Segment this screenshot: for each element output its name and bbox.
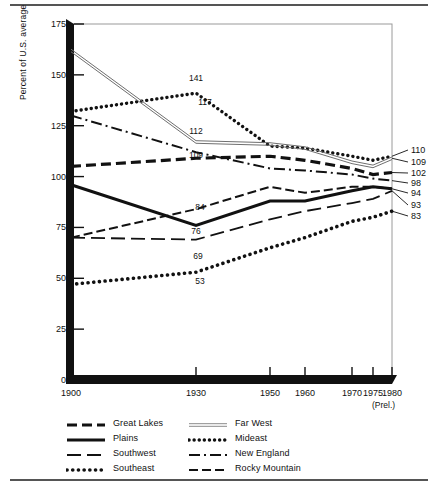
- legend-item-label: Plains: [113, 433, 138, 443]
- preliminary-note: (Prel.): [372, 400, 395, 410]
- legend-item-mideast[interactable]: Mideast: [188, 430, 338, 445]
- legend-swatch-icon: [66, 462, 106, 474]
- data-label-1930: 84: [195, 202, 204, 212]
- legend-item-label: Rocky Mountain: [235, 463, 301, 473]
- chart-plot-area: [0, 0, 438, 485]
- data-label-1980: 109: [411, 157, 426, 167]
- x-tick-label: 1930: [186, 388, 206, 398]
- chart-legend: Great LakesPlainsSouthwestSoutheast Far …: [66, 415, 366, 477]
- series-new-england: [71, 116, 392, 181]
- series-far-west: [71, 49, 392, 168]
- data-label-1980: 83: [411, 211, 421, 221]
- x-tick-label: 1975: [363, 388, 383, 398]
- legend-swatch-icon: [66, 417, 106, 429]
- data-label-1930: 141: [189, 73, 203, 83]
- x-tick-label: 1960: [295, 388, 315, 398]
- data-label-1980: 110: [411, 145, 425, 155]
- series-southeast: [71, 211, 392, 284]
- x-tick-label: 1950: [260, 388, 280, 398]
- legend-swatch-icon: [66, 447, 106, 459]
- x-tick-label: 1900: [61, 388, 81, 398]
- legend-item-rocky-mountain[interactable]: Rocky Mountain: [188, 460, 338, 475]
- data-label-1930: 69: [193, 251, 202, 261]
- legend-swatch-icon: [188, 432, 228, 444]
- data-label-1930: 117: [198, 97, 212, 107]
- data-label-1980: 102: [411, 168, 426, 178]
- legend-column-right: Far WestMideastNew EnglandRocky Mountain: [188, 415, 338, 475]
- legend-item-far-west[interactable]: Far West: [188, 415, 338, 430]
- line-chart-figure: Percent of U.S. average 0255075100125150…: [0, 0, 438, 485]
- legend-item-label: New England: [235, 448, 290, 458]
- data-label-1980: 98: [411, 178, 421, 188]
- legend-swatch-icon: [188, 417, 228, 429]
- plot-frame: [71, 24, 392, 380]
- data-label-1930: 53: [195, 276, 204, 286]
- data-label-1930: 109: [189, 150, 203, 160]
- legend-item-new-england[interactable]: New England: [188, 445, 338, 460]
- x-axis-ticks: [196, 367, 392, 376]
- data-series-group: [71, 49, 392, 284]
- legend-swatch-icon: [66, 432, 106, 444]
- legend-item-label: Southwest: [113, 448, 156, 458]
- data-label-1980: 93: [411, 200, 421, 210]
- x-tick-label: 1980: [382, 388, 402, 398]
- data-label-1930: 112: [189, 126, 203, 136]
- legend-item-label: Southeast: [113, 463, 154, 473]
- legend-item-label: Far West: [235, 418, 272, 428]
- legend-swatch-icon: [188, 447, 228, 459]
- end-label-leader-lines: [392, 150, 408, 216]
- data-label-1980: 94: [411, 188, 421, 198]
- x-tick-label: 1970: [342, 388, 362, 398]
- legend-item-label: Great Lakes: [113, 418, 163, 428]
- legend-item-label: Mideast: [235, 433, 267, 443]
- x-axis-bar: [66, 375, 397, 384]
- data-label-1930: 76: [191, 226, 200, 236]
- legend-swatch-icon: [188, 462, 228, 474]
- series-plains: [71, 185, 392, 226]
- series-mideast: [71, 93, 392, 160]
- y-axis-bar: [66, 19, 74, 380]
